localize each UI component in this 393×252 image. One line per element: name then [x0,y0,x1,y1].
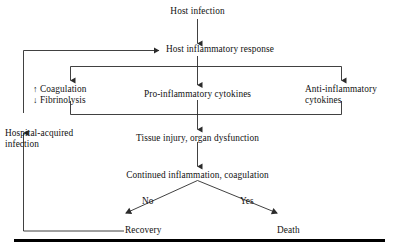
up-arrow-icon: ↑ [33,84,40,95]
node-coagulation: ↑Coagulation [33,84,87,95]
flowchart-diagram: Host infection Host inflammatory respons… [0,0,393,252]
node-hospital-acquired-line1: Hospital-acquired [5,128,73,139]
node-hospital-acquired-line2: infection [5,139,73,150]
node-fibrinolysis-label: Fibrinolysis [40,95,86,105]
node-tissue-injury: Tissue injury, organ dysfunction [136,133,259,144]
node-fibrinolysis: ↓Fibrinolysis [33,95,86,106]
node-host-infection: Host infection [170,6,224,17]
node-anti-inflammatory-cytokines: Anti-inflammatory cytokines [305,84,377,106]
edge-label-no: No [142,196,153,206]
edge-branch-no-to-recovery [126,181,198,214]
node-anti-inflammatory-line2: cytokines [305,95,377,106]
node-host-inflammatory-response: Host inflammatory response [166,44,274,55]
edge-label-yes: Yes [240,196,254,206]
node-recovery: Recovery [125,225,161,236]
node-anti-inflammatory-line1: Anti-inflammatory [305,84,377,95]
bottom-rule [14,239,385,242]
node-hospital-acquired-infection: Hospital-acquired infection [5,128,73,150]
down-arrow-icon: ↓ [33,95,40,106]
flowchart-connectors [0,0,393,252]
node-pro-inflammatory-cytokines: Pro-inflammatory cytokines [144,89,251,100]
node-death: Death [277,225,300,236]
node-continued-inflammation: Continued inflammation, coagulation [126,170,269,181]
node-coagulation-label: Coagulation [40,84,87,94]
edge-branch-yes-to-death [198,181,278,214]
